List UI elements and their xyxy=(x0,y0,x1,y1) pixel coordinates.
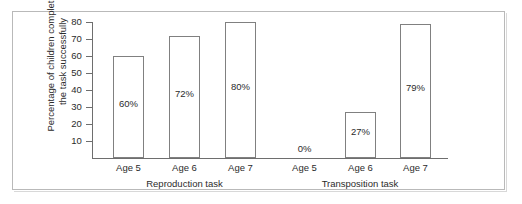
y-axis-tick xyxy=(86,107,92,108)
y-axis-tick-label: 10 xyxy=(60,136,82,146)
y-axis-tick xyxy=(86,39,92,40)
bar-value-label: 60% xyxy=(109,99,149,109)
y-axis-tick-label: 20 xyxy=(60,119,82,129)
x-axis-category-label: Age 5 xyxy=(104,163,154,173)
y-axis-tick-label: 30 xyxy=(60,102,82,112)
y-axis-tick-label-text: 30 xyxy=(60,102,82,112)
x-axis-category-label: Age 7 xyxy=(216,163,266,173)
y-axis-tick xyxy=(86,56,92,57)
y-axis-tick-label-text: 60 xyxy=(60,51,82,61)
y-axis-tick-label-text: 20 xyxy=(60,119,82,129)
y-axis-tick xyxy=(86,22,92,23)
x-axis-category-label: Age 6 xyxy=(160,163,210,173)
x-axis-category-label: Age 6 xyxy=(336,163,386,173)
y-axis-tick-label: 70 xyxy=(60,34,82,44)
y-axis-tick-label: 80 xyxy=(60,17,82,27)
x-axis-category-label: Age 7 xyxy=(391,163,441,173)
y-axis-tick-label-text: 70 xyxy=(60,34,82,44)
y-axis-tick xyxy=(86,141,92,142)
group-label: Transposition task xyxy=(300,179,420,189)
y-axis-title-line-1: Percentage of children completing xyxy=(45,0,57,132)
y-axis-tick-label-text: 80 xyxy=(60,17,82,27)
bar-value-label: 79% xyxy=(396,83,436,93)
plot-area: Percentage of children completing the ta… xyxy=(0,0,522,204)
x-axis-line xyxy=(92,158,448,159)
x-axis-category-label: Age 5 xyxy=(280,163,330,173)
y-axis-tick-label-text: 50 xyxy=(60,68,82,78)
y-axis-line xyxy=(92,22,93,159)
y-axis-tick-label: 60 xyxy=(60,51,82,61)
y-axis-tick xyxy=(86,90,92,91)
group-label: Reproduction task xyxy=(125,179,245,189)
chart-figure: Percentage of children completing the ta… xyxy=(0,0,522,204)
y-axis-tick xyxy=(86,73,92,74)
bar-value-label: 27% xyxy=(341,127,381,137)
y-axis-tick xyxy=(86,124,92,125)
y-axis-tick-label-text: 10 xyxy=(60,136,82,146)
y-axis-tick-label: 40 xyxy=(60,85,82,95)
y-axis-tick-label: 50 xyxy=(60,68,82,78)
bar-value-label: 0% xyxy=(285,144,325,154)
bar-value-label: 80% xyxy=(221,82,261,92)
bar-value-label: 72% xyxy=(165,89,205,99)
y-axis-tick-label-text: 40 xyxy=(60,85,82,95)
